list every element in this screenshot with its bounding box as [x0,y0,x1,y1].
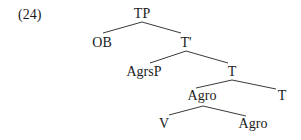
edge-t-agro [196,80,232,88]
edge-agro-v [169,106,203,115]
node-ob: OB [92,35,111,51]
node-t-mid: T [228,64,237,80]
edge-tp-tbar [142,22,181,33]
node-tp: TP [134,6,150,22]
edge-tbar-agrsp [150,51,186,63]
node-v: V [159,116,169,132]
edge-tp-ob [103,22,142,33]
edge-t-t [232,80,276,89]
node-agro-mid: Agro [188,88,217,104]
node-t-bar: T' [180,35,191,51]
edge-tbar-t [186,51,228,63]
node-t-right: T [278,88,287,104]
edge-agro-agro [203,106,246,116]
node-agro-bottom: Agro [239,116,268,132]
syntax-tree-diagram: (24) TP OB T' AgrsP T Agro T V Agro [0,0,301,140]
node-agrsp: AgrsP [126,64,161,80]
